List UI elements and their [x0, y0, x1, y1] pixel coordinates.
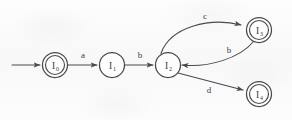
transition-b2-arrow	[182, 42, 253, 66]
transition-a-label: a	[81, 50, 85, 60]
transition-b2-label: b	[227, 45, 232, 55]
state-I1-label: I	[109, 61, 112, 71]
transition-b1-label: b	[138, 50, 143, 60]
state-I4-label-subscript: 4	[260, 95, 263, 101]
transition-d-label: d	[207, 85, 212, 95]
state-I3-label-subscript: 3	[260, 31, 263, 37]
state-I4-label: I	[256, 90, 259, 100]
state-I0-label: I	[52, 61, 55, 71]
state-I1-label-subscript: 1	[113, 66, 116, 72]
state-I2-label-subscript: 2	[169, 66, 172, 72]
transition-c-label: c	[203, 11, 207, 21]
state-node-I3[interactable]: I 3	[247, 18, 272, 43]
state-diagram-canvas: a b c b d I 0 I 1 I 2	[0, 0, 292, 120]
state-node-I2[interactable]: I 2	[156, 53, 181, 78]
state-node-I4[interactable]: I 4	[247, 82, 272, 107]
state-node-I1[interactable]: I 1	[100, 53, 125, 78]
state-I2-label: I	[165, 61, 168, 71]
state-I0-label-subscript: 0	[56, 66, 59, 72]
state-node-I0[interactable]: I 0	[43, 53, 68, 78]
state-I3-label: I	[256, 26, 259, 36]
automaton-diagram: a b c b d I 0 I 1 I 2	[0, 0, 292, 120]
